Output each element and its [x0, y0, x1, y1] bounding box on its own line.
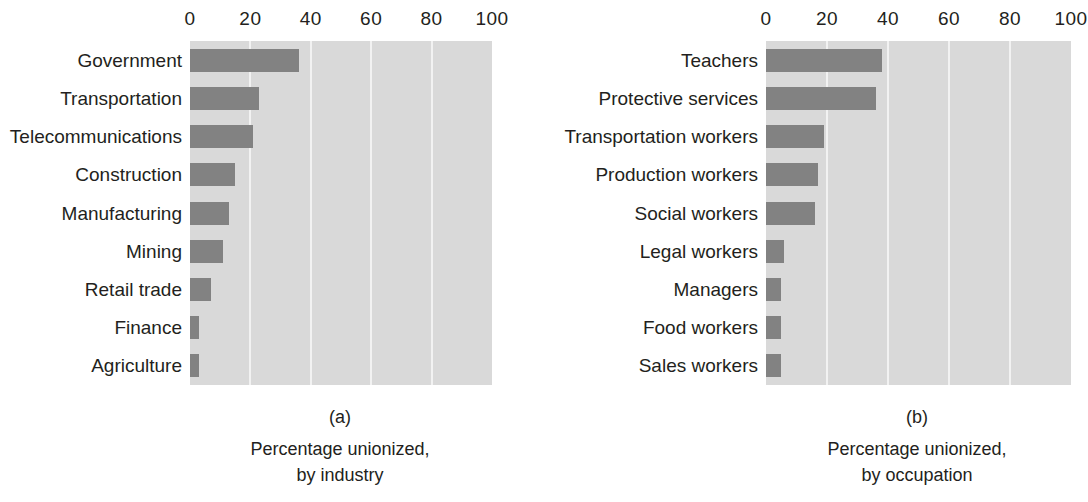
- bar: [190, 163, 235, 186]
- panel-letter-b: (b): [906, 404, 928, 430]
- bar: [766, 49, 882, 72]
- panel-letter-a: (a): [329, 404, 351, 430]
- bar: [766, 354, 781, 377]
- x-tick-label: 40: [300, 8, 322, 30]
- plot-area-a: [190, 41, 492, 385]
- category-label: Construction: [0, 163, 182, 186]
- panel-caption-line2-a: by industry: [296, 462, 383, 488]
- category-label: Food workers: [542, 316, 758, 339]
- bar: [766, 202, 815, 225]
- panel-caption-line2-b: by occupation: [861, 462, 972, 488]
- bar: [190, 278, 211, 301]
- x-tick-label: 0: [184, 8, 195, 30]
- bar: [190, 87, 259, 110]
- x-tick-label: 100: [475, 8, 508, 30]
- y-axis-category-labels-a: GovernmentTransportationTelecommunicatio…: [0, 41, 182, 385]
- bar: [766, 278, 781, 301]
- category-label: Finance: [0, 316, 182, 339]
- x-tick-label: 20: [816, 8, 838, 30]
- panel-caption-line1-a: Percentage unionized,: [250, 436, 429, 462]
- x-tick-label: 100: [1054, 8, 1087, 30]
- category-label: Managers: [542, 278, 758, 301]
- bar: [190, 202, 229, 225]
- category-label: Agriculture: [0, 354, 182, 377]
- bar: [766, 125, 824, 148]
- x-axis-ticks-a: 020406080100: [190, 8, 492, 34]
- category-label: Government: [0, 49, 182, 72]
- bar: [190, 354, 199, 377]
- gridline: [1009, 41, 1011, 385]
- chart-panel-b: 020406080100 TeachersProtective services…: [542, 0, 1085, 502]
- category-label: Sales workers: [542, 354, 758, 377]
- category-label: Mining: [0, 240, 182, 263]
- gridline: [431, 41, 433, 385]
- bar: [766, 163, 818, 186]
- x-tick-label: 0: [760, 8, 771, 30]
- plot-area-b: [766, 41, 1071, 385]
- x-tick-label: 60: [938, 8, 960, 30]
- category-label: Protective services: [542, 87, 758, 110]
- category-label: Transportation workers: [542, 125, 758, 148]
- x-axis-ticks-b: 020406080100: [766, 8, 1071, 34]
- panel-caption-line1-b: Percentage unionized,: [827, 436, 1006, 462]
- bar: [766, 316, 781, 339]
- x-tick-label: 20: [239, 8, 261, 30]
- y-axis-category-labels-b: TeachersProtective servicesTransportatio…: [542, 41, 758, 385]
- bar: [190, 316, 199, 339]
- gridline: [370, 41, 372, 385]
- category-label: Teachers: [542, 49, 758, 72]
- category-label: Production workers: [542, 163, 758, 186]
- gridline: [310, 41, 312, 385]
- category-label: Legal workers: [542, 240, 758, 263]
- x-tick-label: 40: [877, 8, 899, 30]
- category-label: Retail trade: [0, 278, 182, 301]
- bar: [766, 87, 876, 110]
- gridline: [948, 41, 950, 385]
- category-label: Telecommunications: [0, 125, 182, 148]
- category-label: Manufacturing: [0, 202, 182, 225]
- x-tick-label: 80: [999, 8, 1021, 30]
- bar: [190, 240, 223, 263]
- bar: [766, 240, 784, 263]
- category-label: Transportation: [0, 87, 182, 110]
- chart-panel-a: 020406080100 GovernmentTransportationTel…: [0, 0, 542, 502]
- bar: [190, 49, 299, 72]
- category-label: Social workers: [542, 202, 758, 225]
- gridline: [887, 41, 889, 385]
- bar: [190, 125, 253, 148]
- x-tick-label: 80: [421, 8, 443, 30]
- x-tick-label: 60: [360, 8, 382, 30]
